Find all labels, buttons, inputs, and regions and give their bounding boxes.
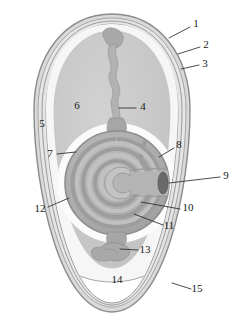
label-15: 15 <box>192 282 204 294</box>
label-13: 13 <box>140 243 152 255</box>
label-8: 8 <box>176 138 182 150</box>
leader-line-2 <box>178 47 200 54</box>
label-7: 7 <box>47 147 53 159</box>
label-4: 4 <box>140 100 146 112</box>
label-11: 11 <box>164 219 175 231</box>
label-12: 12 <box>35 202 46 214</box>
label-3: 3 <box>202 57 208 69</box>
germinal-disc <box>158 172 168 194</box>
label-14: 14 <box>112 273 124 285</box>
label-6: 6 <box>74 99 80 111</box>
label-9: 9 <box>223 169 229 181</box>
label-1: 1 <box>193 17 199 29</box>
leader-line-1 <box>169 27 190 38</box>
label-5: 5 <box>39 117 45 129</box>
egg-diagram-svg: 1 2 3 4 5 6 7 8 9 10 11 12 13 14 15 <box>0 0 243 326</box>
label-2: 2 <box>203 38 209 50</box>
leader-line-15 <box>172 283 191 289</box>
egg-anatomy-diagram: 1 2 3 4 5 6 7 8 9 10 11 12 13 14 15 <box>0 0 243 326</box>
label-10: 10 <box>183 201 195 213</box>
